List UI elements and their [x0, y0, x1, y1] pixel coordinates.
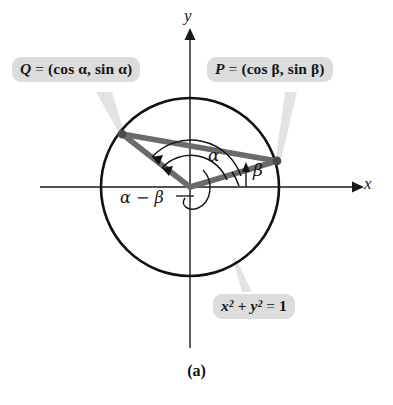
x-axis-arrowhead	[352, 182, 364, 193]
y-axis-arrowhead	[185, 28, 196, 40]
point-p-marker	[273, 157, 282, 166]
trig-unit-circle-figure: y x α β α − β Q = (cos α, sin α) P = (co…	[0, 0, 393, 405]
callout-q-value: (cos α, sin α)	[48, 60, 132, 77]
circle-equation-rhs: 1	[279, 297, 287, 314]
point-q-marker	[118, 130, 127, 139]
circle-equation-lhs: x² + y²	[221, 297, 262, 314]
callout-circle-equation: x² + y² = 1	[213, 294, 295, 319]
x-axis-label: x	[364, 174, 372, 194]
callout-p-name: P	[215, 60, 225, 77]
callout-p-point: P = (cos β, sin β)	[207, 57, 333, 82]
figure-caption: (a)	[0, 362, 393, 380]
circle-equation-equals: =	[262, 297, 279, 314]
leader-p-label	[276, 92, 297, 160]
callout-q-point: Q = (cos α, sin α)	[12, 57, 140, 82]
callout-q-equals: =	[31, 60, 48, 77]
angle-label-beta: β	[253, 160, 263, 180]
leader-circle-label	[232, 256, 252, 292]
callout-p-value: (cos β, sin β)	[241, 60, 324, 77]
leader-q-label	[96, 92, 124, 135]
callout-q-name: Q	[20, 60, 31, 77]
angle-label-alpha-minus-beta: α − β	[120, 188, 164, 207]
angle-loop-curve	[183, 170, 210, 209]
y-axis-label: y	[184, 6, 192, 26]
callout-p-equals: =	[225, 60, 242, 77]
angle-label-alpha: α	[208, 145, 219, 165]
